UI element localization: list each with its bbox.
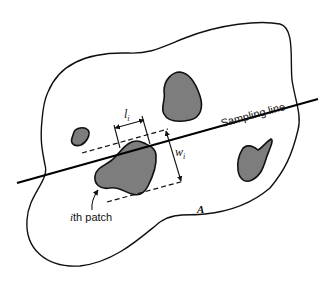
ith-patch-label: ith patch	[70, 211, 112, 223]
sampling-line-label: Sampling line	[219, 100, 286, 129]
area-label: A	[196, 203, 204, 215]
li-label: li	[124, 107, 130, 123]
li-left-extension	[114, 125, 120, 148]
study-area-outline	[27, 23, 299, 267]
ith-patch	[95, 141, 156, 195]
ith-patch-pointer-arrow	[92, 190, 98, 210]
patch-top	[163, 72, 202, 121]
wi-label: wi	[175, 145, 185, 161]
line-intercept-diagram: Sampling line li wi ith patch A	[0, 0, 335, 285]
patch-small-left	[72, 128, 89, 146]
patch-right	[238, 139, 272, 181]
